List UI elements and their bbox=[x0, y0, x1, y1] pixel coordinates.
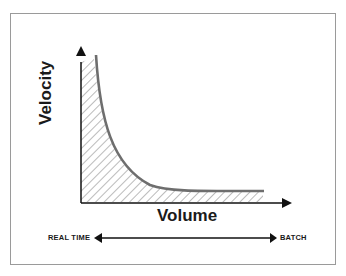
x-axis-label: Volume bbox=[157, 206, 217, 226]
y-axis-arrow-icon bbox=[76, 46, 86, 56]
spectrum-right-arrow-icon bbox=[270, 233, 277, 243]
x-axis-arrow-icon bbox=[282, 198, 292, 208]
real-time-label: REAL TIME bbox=[48, 233, 90, 242]
y-axis-label: Velocity bbox=[36, 61, 56, 125]
hatched-area bbox=[81, 50, 271, 205]
spectrum-left-arrow-icon bbox=[94, 233, 102, 243]
batch-label: BATCH bbox=[280, 233, 307, 242]
